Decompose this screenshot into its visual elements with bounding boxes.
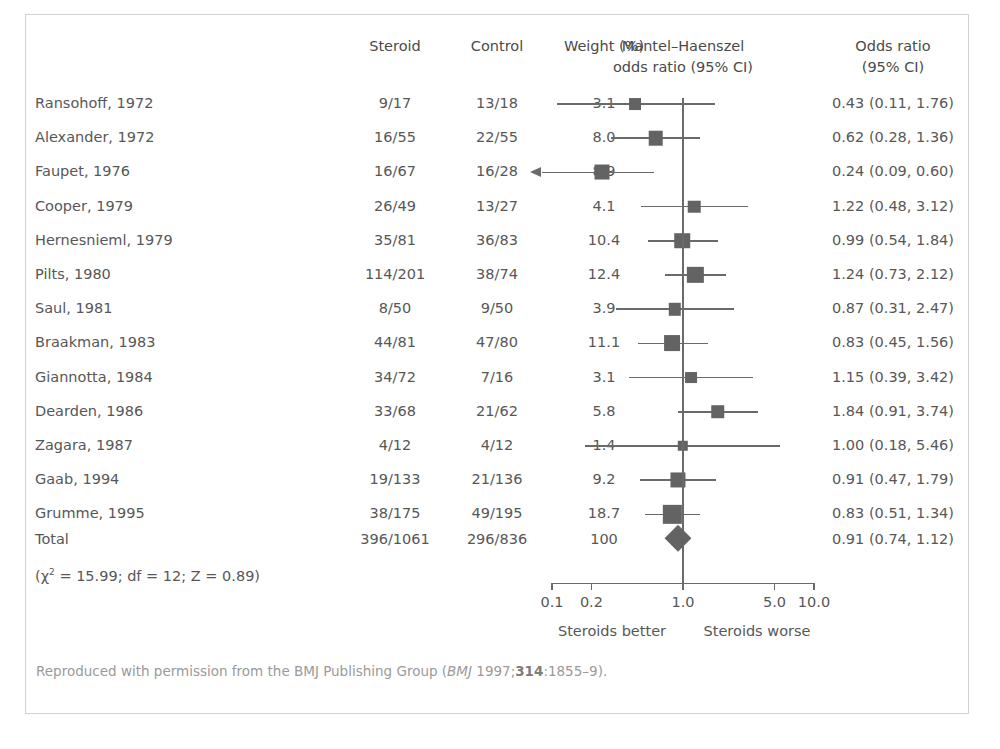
cut-off-caption-sliver bbox=[0, 0, 1000, 10]
study-odds-ratio: 1.24 (0.73, 2.12) bbox=[832, 266, 954, 282]
total-control: 296/836 bbox=[467, 531, 527, 547]
study-name: Faupet, 1976 bbox=[35, 163, 130, 179]
study-odds-ratio: 1.15 (0.39, 3.42) bbox=[832, 369, 954, 385]
study-name: Dearden, 1986 bbox=[35, 403, 143, 419]
study-name: Gaab, 1994 bbox=[35, 471, 119, 487]
column-header-plot-line1: Mantel–Haenszel bbox=[622, 38, 745, 54]
study-name: Cooper, 1979 bbox=[35, 198, 133, 214]
study-odds-ratio: 1.84 (0.91, 3.74) bbox=[832, 403, 954, 419]
study-odds-ratio: 0.43 (0.11, 1.76) bbox=[832, 95, 954, 111]
study-steroid-count: 33/68 bbox=[374, 403, 416, 419]
study-weight: 8.9 bbox=[592, 163, 615, 179]
study-odds-ratio: 0.24 (0.09, 0.60) bbox=[832, 163, 954, 179]
study-weight: 11.1 bbox=[588, 334, 620, 350]
study-odds-ratio: 0.62 (0.28, 1.36) bbox=[832, 129, 954, 145]
study-weight: 3.1 bbox=[592, 95, 615, 111]
column-header-control: Control bbox=[471, 38, 523, 54]
study-steroid-count: 19/133 bbox=[369, 471, 420, 487]
study-control-count: 22/55 bbox=[476, 129, 518, 145]
study-weight: 12.4 bbox=[588, 266, 620, 282]
study-steroid-count: 35/81 bbox=[374, 232, 416, 248]
study-steroid-count: 44/81 bbox=[374, 334, 416, 350]
figure-panel bbox=[25, 14, 969, 714]
study-control-count: 38/74 bbox=[476, 266, 518, 282]
study-steroid-count: 9/17 bbox=[379, 95, 412, 111]
study-control-count: 13/18 bbox=[476, 95, 518, 111]
study-weight: 3.9 bbox=[592, 300, 615, 316]
column-header-steroid: Steroid bbox=[369, 38, 421, 54]
study-control-count: 9/50 bbox=[481, 300, 514, 316]
study-control-count: 36/83 bbox=[476, 232, 518, 248]
study-name: Zagara, 1987 bbox=[35, 437, 133, 453]
column-header-odds-ratio-line2: (95% CI) bbox=[862, 59, 925, 75]
study-steroid-count: 114/201 bbox=[365, 266, 425, 282]
study-name: Braakman, 1983 bbox=[35, 334, 155, 350]
study-steroid-count: 16/55 bbox=[374, 129, 416, 145]
study-odds-ratio: 0.87 (0.31, 2.47) bbox=[832, 300, 954, 316]
study-odds-ratio: 0.91 (0.47, 1.79) bbox=[832, 471, 954, 487]
study-steroid-count: 34/72 bbox=[374, 369, 416, 385]
study-weight: 18.7 bbox=[588, 505, 620, 521]
study-odds-ratio: 1.00 (0.18, 5.46) bbox=[832, 437, 954, 453]
study-name: Grumme, 1995 bbox=[35, 505, 145, 521]
study-steroid-count: 8/50 bbox=[379, 300, 412, 316]
study-steroid-count: 38/175 bbox=[369, 505, 420, 521]
study-control-count: 47/80 bbox=[476, 334, 518, 350]
study-control-count: 21/62 bbox=[476, 403, 518, 419]
study-name: Alexander, 1972 bbox=[35, 129, 154, 145]
study-control-count: 4/12 bbox=[481, 437, 514, 453]
study-odds-ratio: 0.83 (0.45, 1.56) bbox=[832, 334, 954, 350]
study-control-count: 13/27 bbox=[476, 198, 518, 214]
study-steroid-count: 26/49 bbox=[374, 198, 416, 214]
study-control-count: 21/136 bbox=[471, 471, 522, 487]
study-name: Ransohoff, 1972 bbox=[35, 95, 153, 111]
study-weight: 10.4 bbox=[588, 232, 620, 248]
study-weight: 4.1 bbox=[592, 198, 615, 214]
study-weight: 5.8 bbox=[592, 403, 615, 419]
study-odds-ratio: 0.83 (0.51, 1.34) bbox=[832, 505, 954, 521]
study-weight: 8.0 bbox=[592, 129, 615, 145]
total-weight: 100 bbox=[590, 531, 618, 547]
study-weight: 1.4 bbox=[592, 437, 615, 453]
study-odds-ratio: 1.22 (0.48, 3.12) bbox=[832, 198, 954, 214]
source-attribution: Reproduced with permission from the BMJ … bbox=[36, 663, 607, 679]
total-odds-ratio: 0.91 (0.74, 1.12) bbox=[832, 531, 954, 547]
study-odds-ratio: 0.99 (0.54, 1.84) bbox=[832, 232, 954, 248]
study-weight: 3.1 bbox=[592, 369, 615, 385]
study-control-count: 7/16 bbox=[481, 369, 514, 385]
total-label: Total bbox=[35, 531, 69, 547]
heterogeneity-statistics: (χ2 = 15.99; df = 12; Z = 0.89) bbox=[35, 567, 260, 584]
study-name: Giannotta, 1984 bbox=[35, 369, 153, 385]
column-header-odds-ratio-line1: Odds ratio bbox=[855, 38, 930, 54]
study-steroid-count: 4/12 bbox=[379, 437, 412, 453]
study-control-count: 49/195 bbox=[471, 505, 522, 521]
study-name: Hernesnieml, 1979 bbox=[35, 232, 173, 248]
study-steroid-count: 16/67 bbox=[374, 163, 416, 179]
study-name: Pilts, 1980 bbox=[35, 266, 111, 282]
total-steroid: 396/1061 bbox=[360, 531, 429, 547]
column-header-plot-line2: odds ratio (95% CI) bbox=[613, 59, 753, 75]
study-name: Saul, 1981 bbox=[35, 300, 112, 316]
study-weight: 9.2 bbox=[592, 471, 615, 487]
study-control-count: 16/28 bbox=[476, 163, 518, 179]
